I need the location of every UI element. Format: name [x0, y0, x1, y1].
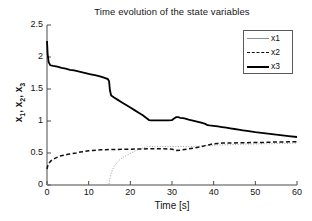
legend-label-x3: x3: [271, 61, 280, 71]
x-tick-label: 60: [282, 187, 312, 197]
y-tick-label: 1.5: [19, 83, 43, 93]
x-tick-label: 20: [115, 187, 145, 197]
legend-swatch-x3: [247, 61, 269, 71]
legend-label-x2: x2: [271, 47, 280, 57]
x-tick-label: 50: [240, 187, 270, 197]
chart-title: Time evolution of the state variables: [47, 6, 297, 17]
x-tick-label: 10: [74, 187, 104, 197]
x-tick-label: 30: [157, 187, 187, 197]
x-tick-label: 0: [32, 187, 62, 197]
legend-item-x3[interactable]: x3: [244, 59, 292, 73]
series-line-x2: [47, 142, 297, 169]
legend-swatch-x1: [247, 33, 269, 43]
legend-swatch-x2: [247, 47, 269, 57]
legend-item-x1[interactable]: x1: [244, 31, 292, 45]
y-tick-label: 2: [19, 51, 43, 61]
chart-figure: Time evolution of the state variables x1…: [0, 0, 312, 221]
x-axis-label: Time [s]: [47, 200, 297, 211]
legend-item-x2[interactable]: x2: [244, 45, 292, 59]
chart-legend[interactable]: x1 x2 x3: [243, 30, 293, 74]
y-tick-label: 0.5: [19, 147, 43, 157]
y-tick-label: 1: [19, 115, 43, 125]
legend-label-x1: x1: [271, 33, 280, 43]
x-tick-label: 40: [199, 187, 229, 197]
y-tick-label: 2.5: [19, 19, 43, 29]
